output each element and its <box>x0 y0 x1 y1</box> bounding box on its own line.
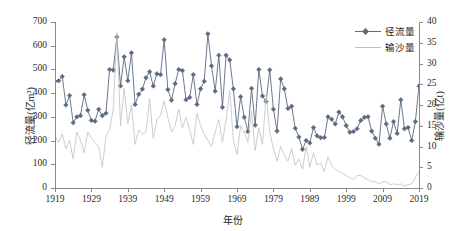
data-point-marker <box>344 123 349 128</box>
data-point-marker <box>369 129 374 134</box>
y-axis-left-tick <box>51 164 55 165</box>
data-point-marker <box>169 98 174 103</box>
x-axis-tick-label: 1989 <box>290 195 330 205</box>
y-axis-left-line <box>55 22 56 188</box>
y-axis-right-tick-label: 15 <box>427 121 437 131</box>
data-point-marker <box>166 87 171 92</box>
data-point-marker <box>249 86 254 91</box>
y-axis-left-tick-label: 500 <box>17 64 47 74</box>
y-axis-left-tick-label: 0 <box>17 183 47 193</box>
data-point-marker <box>373 136 378 141</box>
y-axis-right-tick <box>419 126 423 127</box>
data-point-marker <box>399 97 404 102</box>
data-point-marker <box>391 119 396 124</box>
series-line-sediment <box>55 32 419 186</box>
x-axis-tick-label: 1919 <box>35 195 75 205</box>
data-point-marker <box>275 129 280 134</box>
y-axis-right-tick <box>419 64 423 65</box>
x-axis-tick <box>55 188 56 192</box>
y-axis-right-tick <box>419 105 423 106</box>
data-point-marker <box>198 87 203 92</box>
x-axis-tick-label: 1959 <box>181 195 221 205</box>
x-axis-tick-label: 1979 <box>253 195 293 205</box>
y-axis-right-tick-label: 35 <box>427 38 437 48</box>
data-point-marker <box>191 72 196 77</box>
y-axis-right-tick <box>419 84 423 85</box>
x-axis-tick <box>164 188 165 192</box>
x-axis-tick-label: 1999 <box>326 195 366 205</box>
data-point-marker <box>326 115 331 120</box>
y-axis-left-tick-label: 300 <box>17 112 47 122</box>
data-point-marker <box>184 97 189 102</box>
y-axis-right-tick-label: 0 <box>427 183 432 193</box>
data-point-marker <box>348 130 353 135</box>
data-point-marker <box>213 89 218 94</box>
y-axis-right-tick-label: 10 <box>427 142 437 152</box>
data-point-marker <box>71 120 76 125</box>
data-point-marker <box>126 79 131 84</box>
data-point-marker <box>133 102 138 107</box>
data-point-marker <box>235 125 240 130</box>
data-point-marker <box>231 87 236 92</box>
data-point-marker <box>151 84 156 89</box>
data-point-marker <box>308 141 313 146</box>
y-axis-right-tick <box>419 43 423 44</box>
data-point-marker <box>267 68 272 73</box>
y-axis-right-tick-label: 25 <box>427 79 437 89</box>
x-axis-tick <box>419 188 420 192</box>
x-axis-tick <box>91 188 92 192</box>
data-point-marker <box>293 126 298 131</box>
data-point-marker <box>155 71 160 76</box>
x-axis-tick-label: 1969 <box>217 195 257 205</box>
data-point-marker <box>388 136 393 141</box>
x-axis-tick-label: 2009 <box>363 195 403 205</box>
data-point-marker <box>413 119 418 124</box>
data-point-marker <box>206 32 211 37</box>
data-point-marker <box>64 103 69 108</box>
data-point-marker <box>158 72 163 77</box>
data-point-marker <box>187 95 192 100</box>
data-point-marker <box>122 55 127 60</box>
data-point-marker <box>93 119 98 124</box>
data-point-marker <box>104 111 109 116</box>
y-axis-left-tick <box>51 69 55 70</box>
legend-line-sediment <box>355 47 381 48</box>
data-point-marker <box>162 37 167 42</box>
y-axis-right-tick-label: 5 <box>427 162 432 172</box>
data-point-marker <box>107 67 112 72</box>
y-axis-left-tick-label: 100 <box>17 159 47 169</box>
y-axis-left-tick <box>51 93 55 94</box>
data-point-marker <box>304 138 309 143</box>
data-point-marker <box>282 87 287 92</box>
y-axis-right-tick <box>419 167 423 168</box>
data-point-marker <box>82 93 87 98</box>
y-axis-left-tick-label: 200 <box>17 136 47 146</box>
data-point-marker <box>311 125 316 130</box>
data-point-marker <box>409 138 414 143</box>
data-point-marker <box>395 131 400 136</box>
legend-item-sediment: 输沙量 <box>355 41 415 53</box>
data-point-marker <box>300 147 305 152</box>
y-axis-left-tick <box>51 117 55 118</box>
x-axis-tick <box>383 188 384 192</box>
data-point-marker <box>238 94 243 99</box>
data-point-marker <box>195 102 200 107</box>
x-axis-tick-label: 1929 <box>71 195 111 205</box>
data-point-marker <box>202 79 207 84</box>
y-axis-left-tick <box>51 22 55 23</box>
y-axis-left-tick-label: 400 <box>17 88 47 98</box>
data-point-marker <box>209 64 214 69</box>
y-axis-right-tick-label: 30 <box>427 59 437 69</box>
y-axis-left-tick-label: 700 <box>17 17 47 27</box>
data-point-marker <box>242 115 247 120</box>
legend-swatch-runoff <box>355 26 381 36</box>
legend-label-sediment: 输沙量 <box>385 40 415 54</box>
data-point-marker <box>289 104 294 109</box>
x-axis-tick <box>273 188 274 192</box>
data-point-marker <box>96 107 101 112</box>
y-axis-right-tick <box>419 147 423 148</box>
data-point-marker <box>384 122 389 127</box>
y-axis-left-tick-label: 600 <box>17 41 47 51</box>
y-axis-right-tick <box>419 22 423 23</box>
data-point-marker <box>380 104 385 109</box>
